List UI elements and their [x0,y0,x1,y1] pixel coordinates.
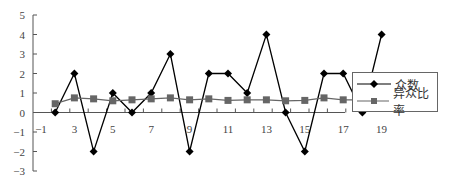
x-tick-label: −1 [35,123,47,135]
x-tick-label: 17 [338,123,350,135]
x-tick-label: 13 [261,123,273,135]
diamond-marker-icon [51,109,59,117]
x-tick-label: 7 [148,123,154,135]
diamond-marker-icon [262,31,270,39]
square-marker-icon [186,96,193,103]
square-marker-icon [90,95,97,102]
mode-series-line [55,35,381,152]
y-tick-label: 1 [20,87,26,99]
square-marker-icon [340,96,347,103]
square-marker-icon [167,94,174,101]
diamond-marker-icon [90,148,98,156]
square-marker-icon [52,100,59,107]
square-marker-icon [148,95,155,102]
square-marker-icon [357,96,389,106]
square-marker-icon [71,94,78,101]
square-marker-icon [205,95,212,102]
y-tick-label: 0 [20,107,26,119]
x-tick-label: 11 [223,123,234,135]
diamond-marker-icon [205,70,213,78]
y-tick-label: −1 [13,126,25,138]
y-tick-label: 2 [20,68,26,80]
axes: 543210−1−2−3−135791113151719 [13,9,387,177]
square-marker-icon [244,96,251,103]
diamond-marker-icon [282,109,290,117]
diamond-marker-icon [320,70,328,78]
diamond-marker-icon [339,70,347,78]
legend-label: 异众比率 [393,84,437,118]
x-tick-label: 5 [110,123,116,135]
square-marker-icon [109,97,116,104]
square-marker-icon [282,97,289,104]
square-marker-icon [225,97,232,104]
x-tick-label: 3 [72,123,78,135]
series-layer [51,31,385,156]
x-tick-label: 19 [376,123,388,135]
x-tick-label: 9 [187,123,193,135]
square-marker-icon [321,94,328,101]
diamond-marker-icon [357,79,391,89]
y-tick-label: −3 [13,165,25,177]
diamond-marker-icon [186,148,194,156]
diamond-marker-icon [378,31,386,39]
y-tick-label: 3 [20,48,26,60]
square-marker-icon [263,96,270,103]
square-marker-icon [129,96,136,103]
legend: 众数 异众比率 [352,72,438,112]
diamond-marker-icon [166,50,174,58]
y-tick-label: 4 [20,29,26,41]
y-tick-label: 5 [20,9,26,21]
diamond-marker-icon [301,148,309,156]
diamond-marker-icon [70,70,78,78]
variation-ratio-series-line [55,98,381,104]
y-tick-label: −2 [13,146,25,158]
legend-item-variation-ratio: 异众比率 [357,93,437,109]
square-marker-icon [301,97,308,104]
